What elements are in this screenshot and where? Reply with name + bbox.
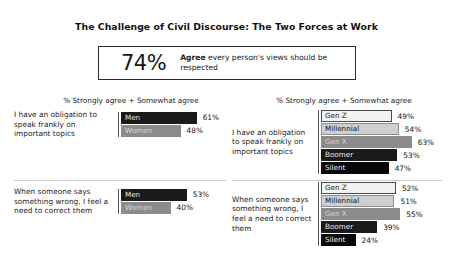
bar-label: Men [122,114,140,122]
bar-label: Gen X [322,138,347,146]
bar-label: Boomer [322,223,353,231]
bar-row: Silent 24% [321,234,442,246]
bar-label: Gen Z [322,112,347,120]
headline-stat-text: Agree every person's views should be res… [180,53,355,73]
panel-gender: % Strongly agree + Somewhat agree I have… [14,96,226,106]
panel-generation-subhead: % Strongly agree + Somewhat agree [232,96,442,106]
bar-row: Gen Z 52% [321,182,442,194]
chart-block-gender-obligation: I have an obligation to speak frankly on… [14,110,226,139]
bar-row: Millennial 51% [321,195,442,207]
question-text: I have an obligation to speak frankly on… [232,128,318,157]
bar-row: Men 61% [121,112,226,124]
panel-generation: % Strongly agree + Somewhat agree I have… [232,96,442,106]
bar-row: Boomer 39% [321,221,442,233]
bar-value: 47% [389,164,411,173]
bar-value: 49% [392,112,414,121]
bar-row: Men 53% [121,189,226,201]
bar-men: Men [121,189,187,201]
bar-label: Millennial [322,197,359,205]
infographic-root: The Challenge of Civil Discourse: The Tw… [0,0,453,257]
bar-row: Women 48% [121,125,226,137]
question-text: I have an obligation to speak frankly on… [14,110,118,139]
bar-value: 55% [400,210,422,219]
headline-stat-box: 74% Agree every person's views should be… [98,46,356,80]
bar-row: Gen X 55% [321,208,442,220]
headline-stat-emphasis: Agree [180,53,205,62]
bar-label: Silent [322,236,345,244]
bar-millennial: Millennial [321,123,399,135]
bar-gen-z: Gen Z [321,110,392,122]
bar-row: Silent 47% [321,162,442,174]
bar-value: 61% [197,113,219,122]
bar-men: Men [121,112,197,124]
bar-gen-x: Gen X [321,208,400,220]
bar-label: Men [122,191,140,199]
bar-women: Women [121,202,171,214]
bar-row: Boomer 53% [321,149,442,161]
bar-group: Men 61% Women 48% [118,112,226,137]
chart-block-generation-obligation: I have an obligation to speak frankly on… [232,110,442,174]
bar-silent: Silent [321,234,356,246]
question-text: When someone says something wrong, I fee… [14,187,118,216]
bar-label: Gen Z [322,184,347,192]
question-text: When someone says something wrong, I fee… [232,195,318,233]
bar-group: Gen Z 49% Millennial 54% Gen X 63% [318,110,442,174]
bar-boomer: Boomer [321,149,397,161]
bar-silent: Silent [321,162,389,174]
bar-label: Gen X [322,210,347,218]
bar-value: 54% [399,125,421,134]
bar-value: 24% [356,236,378,245]
bar-gen-x: Gen X [321,136,412,148]
bar-millennial: Millennial [321,195,394,207]
bar-label: Millennial [322,125,359,133]
bar-row: Women 40% [121,202,226,214]
bar-row: Gen Z 49% [321,110,442,122]
bar-value: 52% [396,184,418,193]
chart-block-gender-correct: When someone says something wrong, I fee… [14,187,226,216]
bar-label: Boomer [322,151,353,159]
divider-left [14,180,226,181]
page-title: The Challenge of Civil Discourse: The Tw… [0,21,453,33]
chart-block-generation-correct: When someone says something wrong, I fee… [232,182,442,246]
bar-value: 40% [171,203,193,212]
bar-value: 48% [181,126,203,135]
headline-stat-number: 74% [121,52,166,74]
bar-boomer: Boomer [321,221,377,233]
bar-value: 51% [394,197,416,206]
bar-value: 39% [377,223,399,232]
bar-gen-z: Gen Z [321,182,396,194]
panel-gender-subhead: % Strongly agree + Somewhat agree [14,96,226,106]
divider-right [232,180,442,181]
bar-group: Men 53% Women 40% [118,189,226,214]
bar-row: Gen X 63% [321,136,442,148]
bar-label: Women [122,127,152,135]
bar-group: Gen Z 52% Millennial 51% Gen X 55% [318,182,442,246]
bar-label: Women [122,204,152,212]
headline-stat-inner: 74% Agree every person's views should be… [99,47,355,79]
bar-women: Women [121,125,181,137]
bar-value: 53% [187,190,209,199]
bar-value: 53% [397,151,419,160]
bar-label: Silent [322,164,345,172]
bar-row: Millennial 54% [321,123,442,135]
bar-value: 63% [412,138,434,147]
